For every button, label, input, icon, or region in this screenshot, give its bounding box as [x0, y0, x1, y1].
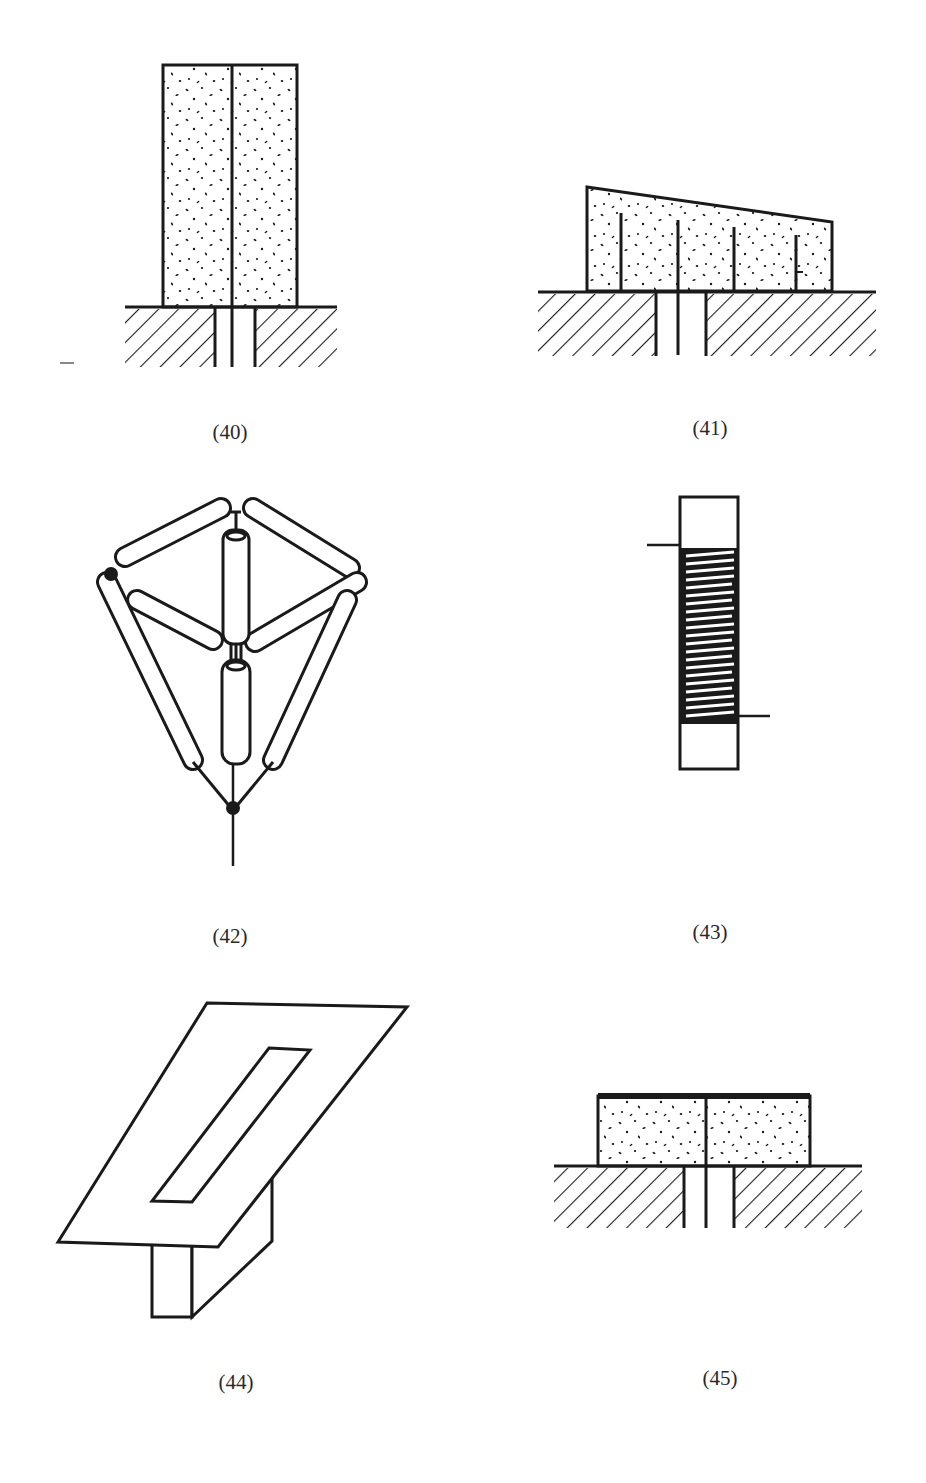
caption-45: (45) — [670, 1366, 770, 1391]
tripod-rod-frame-drawing — [85, 490, 385, 870]
plated-slot-block-drawing — [548, 1088, 868, 1238]
figure-41 — [530, 180, 890, 360]
caption-43: (43) — [660, 920, 760, 945]
figure-44 — [50, 995, 420, 1335]
caption-44: (44) — [186, 1370, 286, 1395]
caption-41: (41) — [660, 416, 760, 441]
coil-on-rod-drawing — [640, 490, 780, 780]
figure-42 — [85, 490, 385, 870]
figure-43 — [640, 490, 780, 780]
figure-40 — [115, 55, 345, 375]
stray-mark — [60, 362, 74, 364]
caption-42: (42) — [180, 924, 280, 949]
slotted-plate-on-beam-drawing — [50, 995, 420, 1335]
caption-40: (40) — [180, 420, 280, 445]
slot-block-tall-drawing — [115, 55, 345, 375]
figure-45 — [548, 1088, 868, 1238]
sloped-slot-block-drawing — [530, 180, 890, 360]
